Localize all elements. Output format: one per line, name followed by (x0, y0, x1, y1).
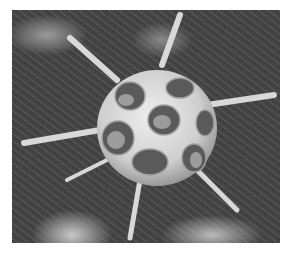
radiolarian-shell (12, 10, 280, 243)
micrograph-photo (12, 10, 280, 243)
